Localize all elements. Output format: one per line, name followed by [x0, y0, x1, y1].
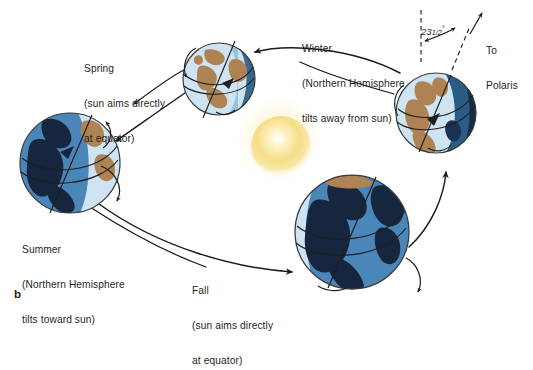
globe-spring [183, 41, 255, 118]
label-spring: Spring (sun aims directly at equator) [84, 40, 165, 168]
figure-part-label: b [14, 288, 21, 300]
label-summer-line3: tilts toward sun) [22, 314, 125, 326]
tilt-degree-symbol: ° [442, 24, 445, 33]
label-fall-line2: (sun aims directly [192, 320, 273, 332]
label-winter-line1: Winter [302, 43, 405, 55]
label-spring-line3: at equator) [84, 133, 165, 145]
label-fall: Fall (sun aims directly at equator) [192, 262, 273, 370]
axial-tilt-annotation [421, 10, 482, 70]
label-summer-line2: (Northern Hemisphere [22, 279, 125, 291]
label-spring-line2: (sun aims directly [84, 98, 165, 110]
tilt-fraction: 1/2 [432, 28, 442, 37]
axis-extension-line [452, 26, 470, 70]
tilt-value: 23 [421, 26, 432, 37]
label-summer: Summer (Northern Hemisphere tilts toward… [22, 221, 125, 349]
label-fall-line1: Fall [192, 285, 273, 297]
label-winter-line2: (Northern Hemisphere [302, 78, 405, 90]
label-winter: Winter (Northern Hemisphere tilts away f… [302, 20, 405, 148]
label-axial-tilt-angle: 231/2° [421, 24, 445, 37]
label-polaris-line2: Polaris [486, 80, 518, 92]
to-polaris-arrow [470, 13, 482, 34]
label-winter-line3: tilts away from sun) [302, 113, 405, 125]
label-fall-line3: at equator) [192, 355, 273, 367]
label-spring-line1: Spring [84, 63, 165, 75]
globe-fall [294, 173, 420, 293]
label-polaris-line1: To [486, 45, 518, 57]
globe-winter [395, 73, 476, 156]
label-summer-line1: Summer [22, 244, 125, 256]
label-to-polaris: To Polaris [486, 22, 518, 115]
